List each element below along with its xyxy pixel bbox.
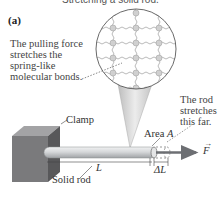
area-symbol: A [167, 128, 173, 139]
area-leader [152, 138, 160, 146]
magnified-lattice [94, 7, 180, 93]
solid-rod [44, 147, 156, 158]
length-label: L [96, 162, 102, 173]
area-label: Area A [144, 128, 173, 139]
rod-diagram [0, 0, 222, 200]
vector-arrow-icon: → [204, 139, 212, 148]
force-label: → F [203, 145, 209, 156]
clamp-label: Clamp [66, 114, 94, 125]
delta-length-label: ΔL [154, 164, 166, 175]
solid-rod-label: Solid rod [52, 174, 91, 185]
area-prefix: Area [144, 128, 167, 139]
